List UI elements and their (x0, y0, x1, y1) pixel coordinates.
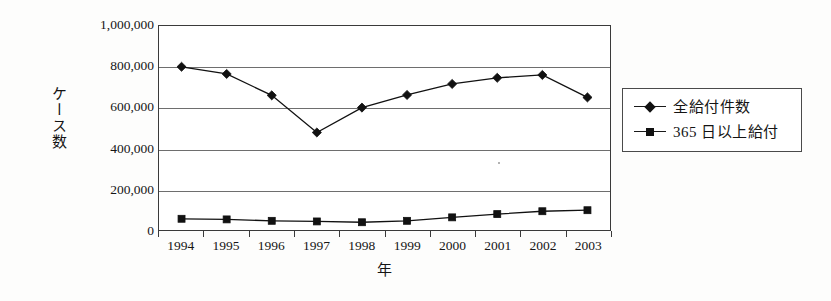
data-point-diamond (402, 90, 411, 99)
data-point-square (494, 211, 501, 218)
data-point-square (584, 207, 591, 214)
data-point-square (449, 214, 456, 221)
legend-label-1: 365 日以上給付 (673, 123, 779, 141)
x-tick-mark (158, 231, 159, 237)
x-tick-mark (339, 231, 340, 237)
data-point-diamond (538, 70, 547, 79)
x-tick-mark (203, 231, 204, 237)
x-tick-label: 1997 (294, 238, 340, 254)
legend: 全給付件数 365 日以上給付 (622, 88, 802, 152)
data-point-diamond (493, 73, 502, 82)
y-tick-label: 200,000 (68, 183, 154, 197)
x-tick-mark (430, 231, 431, 237)
legend-entry-0: 全給付件数 (633, 95, 751, 119)
data-point-square (313, 218, 320, 225)
y-axis-title: ケース数 (44, 86, 66, 150)
data-point-diamond (357, 103, 366, 112)
data-point-square (539, 208, 546, 215)
data-series-layer (159, 26, 610, 230)
x-tick-label: 1994 (158, 238, 204, 254)
legend-label-0: 全給付件数 (673, 98, 751, 116)
data-point-square (358, 219, 365, 226)
series-long-term-benefits (178, 207, 591, 226)
x-axis-title: 年 (158, 262, 611, 279)
x-tick-mark (475, 231, 476, 237)
data-point-square (268, 217, 275, 224)
data-point-square (223, 216, 230, 223)
plot-area (158, 25, 611, 231)
x-axis-tick-marks (158, 231, 611, 238)
x-tick-label: 2001 (475, 238, 521, 254)
x-tick-label: 1999 (384, 238, 430, 254)
y-tick-label: 0 (68, 224, 154, 238)
x-tick-mark (566, 231, 567, 237)
x-tick-mark (249, 231, 250, 237)
y-tick-label: 400,000 (68, 142, 154, 156)
legend-entry-1: 365 日以上給付 (633, 120, 779, 144)
x-tick-label: 1996 (248, 238, 294, 254)
legend-marker-diamond-icon (633, 99, 667, 115)
x-tick-mark (385, 231, 386, 237)
series-line (182, 67, 588, 133)
x-tick-mark (294, 231, 295, 237)
x-tick-label: 2002 (520, 238, 566, 254)
chart-figure: ケース数 1,000,000800,000600,000400,000200,0… (0, 0, 831, 301)
data-point-diamond (583, 93, 592, 102)
data-point-square (404, 217, 411, 224)
x-tick-label: 1995 (203, 238, 249, 254)
x-tick-label: 2003 (565, 238, 611, 254)
data-point-square (178, 215, 185, 222)
x-axis-tick-labels: 1994199519961997199819992000200120022003 (158, 238, 611, 258)
y-axis-tick-labels: 1,000,000800,000600,000400,000200,0000 (64, 0, 154, 301)
series-all-benefits (177, 62, 592, 137)
scan-artifact-speck (498, 162, 500, 164)
x-tick-label: 2000 (429, 238, 475, 254)
x-tick-mark (611, 231, 612, 237)
data-point-diamond (222, 69, 231, 78)
y-tick-label: 1,000,000 (68, 18, 154, 32)
series-line (182, 210, 588, 222)
data-point-diamond (177, 62, 186, 71)
y-tick-label: 600,000 (68, 100, 154, 114)
y-tick-label: 800,000 (68, 59, 154, 73)
x-tick-mark (520, 231, 521, 237)
legend-marker-square-icon (633, 124, 667, 140)
data-point-diamond (448, 79, 457, 88)
x-tick-label: 1998 (339, 238, 385, 254)
